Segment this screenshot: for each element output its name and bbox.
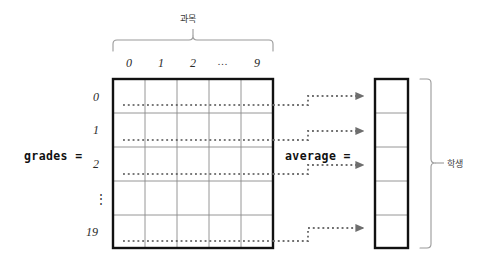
row-header-0: 0 (93, 90, 99, 105)
column-header-1: 1 (158, 56, 164, 71)
average-variable-label: average = (285, 149, 351, 163)
average-vector-grid (375, 79, 408, 248)
mapping-arrow-row-2 (273, 165, 364, 174)
diagram-canvas: 과목 0 1 2 ... 9 0 1 2 ⋮ 19 grades = avera… (0, 0, 486, 262)
subject-axis-label: 과목 (180, 12, 196, 25)
student-axis-label: 학생 (447, 157, 463, 170)
mapping-arrow-row-1 (273, 131, 364, 140)
column-header-0: 0 (126, 56, 132, 71)
grades-variable-label: grades = (24, 149, 83, 163)
column-header-2: 2 (190, 56, 196, 71)
subject-brace (113, 29, 273, 51)
mapping-arrow-row-0 (273, 96, 364, 105)
column-header-9: 9 (254, 56, 260, 71)
mapping-arrow-row-19 (273, 228, 364, 241)
diagram-graphics (0, 0, 486, 262)
row-header-19: 19 (86, 225, 98, 240)
row-header-ellipsis: ⋮ (95, 192, 107, 207)
row-header-2: 2 (93, 157, 99, 172)
matrix-row-dotted-lines (123, 105, 273, 241)
row-header-1: 1 (93, 123, 99, 138)
column-header-ellipsis: ... (218, 56, 229, 67)
mapping-arrows (273, 96, 364, 241)
student-brace (420, 79, 444, 248)
